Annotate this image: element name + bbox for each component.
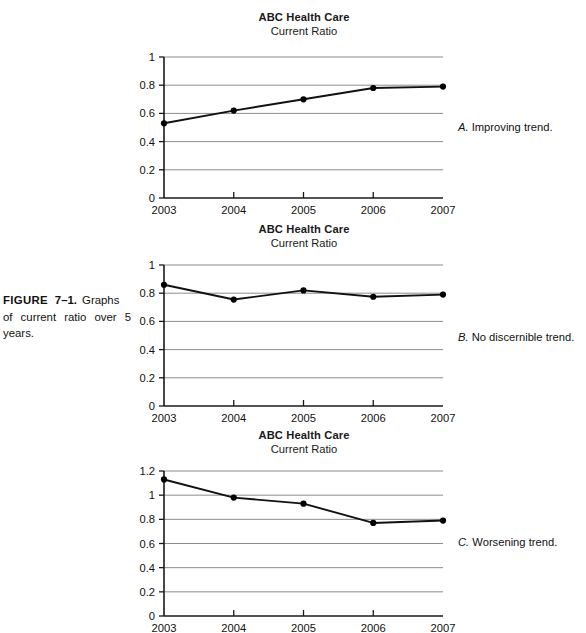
x-tick-label: 2006 xyxy=(361,204,386,216)
chart-b-svg: 00.20.40.60.8120032004200520062007 xyxy=(0,222,586,427)
data-point-marker xyxy=(370,294,376,300)
panel-note-b-text: No discernible trend. xyxy=(472,331,575,343)
y-tick-label: 0 xyxy=(149,192,155,204)
chart-a-svg: 00.20.40.60.8120032004200520062007 xyxy=(0,10,586,220)
y-tick-label: 1 xyxy=(149,259,155,271)
data-point-marker xyxy=(300,96,306,102)
data-point-marker xyxy=(440,84,446,90)
x-tick-label: 2004 xyxy=(221,412,246,424)
y-tick-label: 0.4 xyxy=(139,562,155,574)
x-tick-label: 2006 xyxy=(361,622,386,633)
y-tick-label: 0.6 xyxy=(139,315,155,327)
chart-c-plot-area: 00.20.40.60.811.220032004200520062007 xyxy=(0,428,586,633)
x-tick-label: 2007 xyxy=(431,622,456,633)
y-tick-label: 0.8 xyxy=(139,287,155,299)
y-tick-label: 0 xyxy=(149,400,155,412)
x-tick-label: 2006 xyxy=(361,412,386,424)
x-tick-label: 2003 xyxy=(152,412,177,424)
data-point-marker xyxy=(161,476,167,482)
x-tick-label: 2003 xyxy=(152,622,177,633)
data-point-marker xyxy=(161,120,167,126)
x-tick-label: 2005 xyxy=(291,204,316,216)
y-tick-label: 1 xyxy=(149,489,155,501)
chart-panel-a: ABC Health Care Current Ratio 00.20.40.6… xyxy=(0,10,586,220)
data-point-marker xyxy=(370,520,376,526)
data-point-marker xyxy=(161,282,167,288)
x-tick-label: 2004 xyxy=(221,622,246,633)
data-point-marker xyxy=(440,517,446,523)
y-tick-label: 0.2 xyxy=(139,164,155,176)
panel-note-c-letter: C. xyxy=(458,536,469,548)
data-point-marker xyxy=(300,287,306,293)
panel-note-c-text: Worsening trend. xyxy=(472,536,557,548)
y-tick-label: 0 xyxy=(149,610,155,622)
y-tick-label: 0.6 xyxy=(139,107,155,119)
panel-note-c: C. Worsening trend. xyxy=(458,536,557,548)
chart-c-svg: 00.20.40.60.811.220032004200520062007 xyxy=(0,428,586,633)
chart-b-plot-area: 00.20.40.60.8120032004200520062007 xyxy=(0,222,586,427)
y-tick-label: 0.4 xyxy=(139,344,155,356)
data-point-marker xyxy=(440,292,446,298)
y-tick-label: 0.4 xyxy=(139,136,155,148)
y-tick-label: 0.2 xyxy=(139,586,155,598)
x-tick-label: 2004 xyxy=(221,204,246,216)
panel-note-b: B. No discernible trend. xyxy=(458,331,574,343)
panel-note-a: A. Improving trend. xyxy=(458,121,553,133)
data-point-marker xyxy=(231,296,237,302)
chart-panel-c: ABC Health Care Current Ratio 00.20.40.6… xyxy=(0,428,586,633)
data-point-marker xyxy=(370,85,376,91)
y-tick-label: 0.8 xyxy=(139,79,155,91)
y-tick-label: 0.6 xyxy=(139,538,155,550)
y-tick-label: 0.2 xyxy=(139,372,155,384)
data-point-marker xyxy=(300,501,306,507)
y-tick-label: 1.2 xyxy=(139,465,155,477)
data-series-line xyxy=(164,87,443,124)
x-tick-label: 2007 xyxy=(431,412,456,424)
panel-note-a-letter: A. xyxy=(458,121,469,133)
y-tick-label: 0.8 xyxy=(139,513,155,525)
x-tick-label: 2005 xyxy=(291,622,316,633)
x-tick-label: 2003 xyxy=(152,204,177,216)
chart-a-plot-area: 00.20.40.60.8120032004200520062007 xyxy=(0,10,586,220)
panel-note-a-text: Improving trend. xyxy=(472,121,553,133)
data-point-marker xyxy=(231,494,237,500)
x-tick-label: 2007 xyxy=(431,204,456,216)
panel-note-b-letter: B. xyxy=(458,331,469,343)
chart-panel-b: ABC Health Care Current Ratio 00.20.40.6… xyxy=(0,222,586,427)
data-point-marker xyxy=(231,107,237,113)
x-tick-label: 2005 xyxy=(291,412,316,424)
y-tick-label: 1 xyxy=(149,51,155,63)
